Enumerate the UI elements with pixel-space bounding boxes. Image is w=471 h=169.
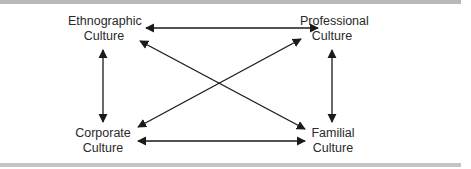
node-ethnographic-culture: Ethnographic Culture bbox=[68, 14, 140, 44]
arrow-ethnographic-familial bbox=[140, 41, 305, 129]
node-label-line1: Familial bbox=[308, 126, 358, 141]
node-label-line2: Culture bbox=[308, 141, 358, 156]
node-corporate-culture: Corporate Culture bbox=[75, 126, 131, 156]
node-label-line1: Ethnographic bbox=[68, 14, 140, 29]
node-familial-culture: Familial Culture bbox=[308, 126, 358, 156]
node-label-line1: Professional bbox=[300, 14, 364, 29]
node-label-line2: Culture bbox=[75, 141, 131, 156]
node-label-line2: Culture bbox=[68, 29, 140, 44]
node-label-line2: Culture bbox=[300, 29, 364, 44]
node-professional-culture: Professional Culture bbox=[300, 14, 364, 44]
node-label-line1: Corporate bbox=[75, 126, 131, 141]
